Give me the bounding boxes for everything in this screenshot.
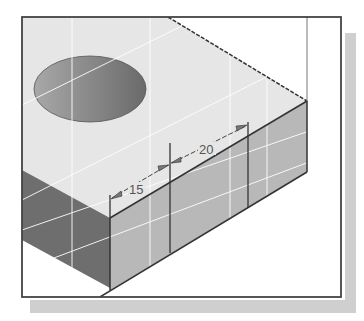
frame-shadow-right [345, 33, 356, 313]
frame-shadow [30, 300, 356, 313]
cad-viewport: 15 20 [0, 0, 364, 321]
dimension-label-15: 15 [129, 182, 143, 197]
hole [34, 56, 146, 122]
dimension-label-20: 20 [199, 142, 213, 157]
